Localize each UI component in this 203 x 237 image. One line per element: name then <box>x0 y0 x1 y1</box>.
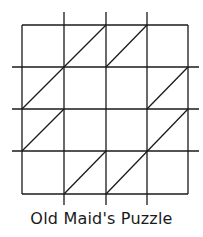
quilt-block-diagram <box>0 0 203 237</box>
diagonal-line <box>22 109 64 151</box>
diagonal-line <box>64 151 106 194</box>
diagonal-line <box>106 25 147 67</box>
diagram-caption: Old Maid's Puzzle <box>0 209 203 228</box>
diagonal-line <box>147 67 188 109</box>
